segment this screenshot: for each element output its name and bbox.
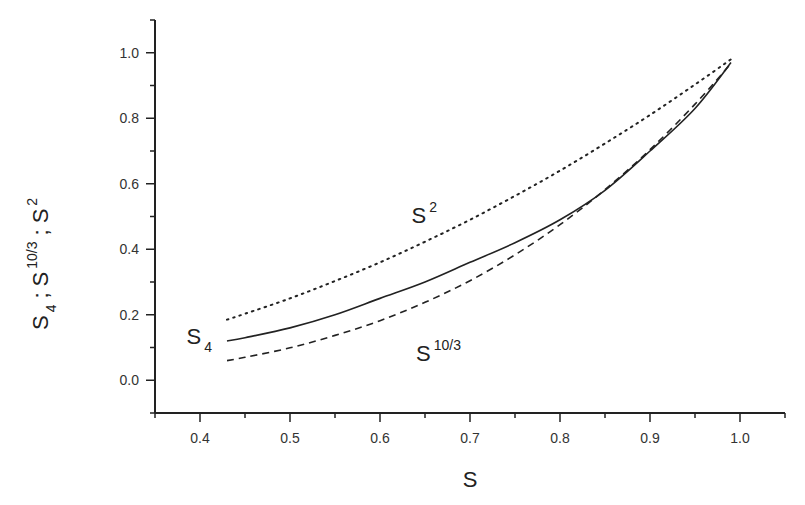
curve-label: S10/3 [416,337,461,366]
curve-s103 [227,64,731,361]
curve-label: S4 [187,324,213,355]
y-tick-label: 0.8 [120,110,140,126]
curve-label: S2 [412,199,438,228]
curve-s4 [227,63,731,341]
x-tick-label: 0.5 [280,430,300,446]
y-tick-label: 0.6 [120,176,140,192]
y-axis-title: S4;S10/3;S2 [24,198,59,330]
x-axis-title: S [463,467,478,492]
chart-canvas: 0.00.20.40.60.81.00.40.50.60.70.80.91.0 … [0,0,805,505]
x-tick-label: 0.8 [550,430,570,446]
curve-s2 [227,59,731,319]
y-tick-label: 0.0 [120,372,140,388]
axis-titles: SS4;S10/3;S2 [24,198,477,492]
x-tick-label: 1.0 [730,430,750,446]
x-tick-label: 0.4 [190,430,210,446]
axes: 0.00.20.40.60.81.00.40.50.60.70.80.91.0 [120,20,785,446]
curves [227,59,731,360]
x-tick-label: 0.7 [460,430,480,446]
y-tick-label: 1.0 [120,45,140,61]
x-tick-label: 0.6 [370,430,390,446]
x-tick-label: 0.9 [640,430,660,446]
y-tick-label: 0.2 [120,307,140,323]
y-tick-label: 0.4 [120,241,140,257]
